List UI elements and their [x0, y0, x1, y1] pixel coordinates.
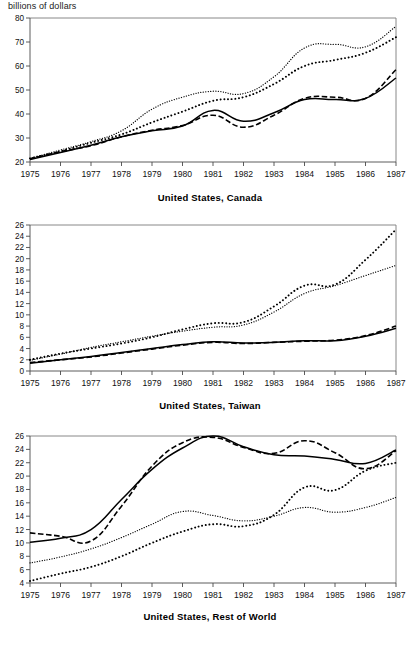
- y-tick-label: 26: [15, 432, 25, 441]
- chart-line-series-dotted-fine: [30, 265, 396, 360]
- x-tick-label: 1981: [203, 169, 222, 179]
- x-tick-label: 1984: [295, 378, 314, 388]
- y-tick-label: 10: [15, 539, 25, 548]
- chart-caption-taiwan: United States, Taiwan: [0, 400, 420, 411]
- x-tick-label: 1986: [356, 169, 375, 179]
- y-tick-label: 6: [19, 566, 24, 575]
- y-tick-label: 40: [15, 110, 25, 119]
- x-tick-label: 1979: [142, 169, 161, 179]
- x-tick-label: 1976: [51, 378, 70, 388]
- y-tick-label: 26: [15, 221, 25, 230]
- y-tick-label: 24: [15, 232, 25, 241]
- y-tick-label: 70: [15, 38, 25, 47]
- chart-line-series-dashed: [30, 437, 396, 543]
- x-tick-label: 1983: [264, 590, 283, 600]
- x-tick-label: 1981: [203, 378, 222, 388]
- y-tick-label: 12: [15, 300, 25, 309]
- y-tick-label: 4: [19, 345, 24, 354]
- x-tick-label: 1976: [51, 590, 70, 600]
- y-tick-label: 20: [15, 158, 25, 167]
- x-tick-label: 1982: [234, 169, 253, 179]
- x-tick-label: 1985: [325, 590, 344, 600]
- y-tick-label: 12: [15, 526, 25, 535]
- chart-line-series-solid: [30, 78, 396, 160]
- x-tick-label: 1981: [203, 590, 222, 600]
- y-tick-label: 14: [15, 288, 25, 297]
- x-tick-label: 1979: [142, 378, 161, 388]
- y-tick-label: 10: [15, 311, 25, 320]
- x-tick-label: 1975: [20, 378, 39, 388]
- chart-panel-taiwan: 0246810121416182022242619751976197719781…: [0, 219, 420, 400]
- y-tick-label: 0: [19, 367, 24, 376]
- x-tick-label: 1986: [356, 378, 375, 388]
- chart-line-series-solid: [30, 436, 396, 542]
- y-tick-label: 2: [19, 356, 24, 365]
- y-tick-label: 14: [15, 512, 25, 521]
- y-tick-label: 8: [19, 552, 24, 561]
- x-tick-label: 1980: [173, 378, 192, 388]
- y-tick-label: 22: [15, 243, 25, 252]
- chart-svg: 2030405060708019751976197719781979198019…: [0, 10, 420, 192]
- x-tick-label: 1984: [295, 590, 314, 600]
- x-tick-label: 1979: [142, 590, 161, 600]
- y-tick-label: 6: [19, 333, 24, 342]
- y-tick-label: 4: [19, 579, 24, 588]
- x-tick-label: 1975: [20, 169, 39, 179]
- x-tick-label: 1976: [51, 169, 70, 179]
- x-tick-label: 1985: [325, 169, 344, 179]
- x-tick-label: 1978: [112, 378, 131, 388]
- y-tick-label: 24: [15, 445, 25, 454]
- x-tick-label: 1982: [234, 378, 253, 388]
- x-tick-label: 1980: [173, 590, 192, 600]
- y-tick-label: 50: [15, 86, 25, 95]
- plot-frame: [30, 436, 396, 583]
- chart-line-series-dashed: [30, 70, 396, 159]
- y-tick-label: 16: [15, 277, 25, 286]
- chart-caption-canada: United States, Canada: [0, 192, 420, 203]
- x-tick-label: 1977: [81, 169, 100, 179]
- x-tick-label: 1975: [20, 590, 39, 600]
- y-tick-label: 22: [15, 459, 25, 468]
- chart-panel-rest-of-world: 4681012141618202224261975197619771978197…: [0, 428, 420, 611]
- x-tick-label: 1978: [112, 590, 131, 600]
- y-tick-label: 60: [15, 62, 25, 71]
- y-tick-label: 30: [15, 134, 25, 143]
- chart-caption-rest-of-world: United States, Rest of World: [0, 611, 420, 622]
- chart-svg: 4681012141618202224261975197619771978197…: [0, 428, 420, 611]
- chart-panel-canada: 2030405060708019751976197719781979198019…: [0, 10, 420, 192]
- y-tick-label: 18: [15, 266, 25, 275]
- plot-frame: [30, 18, 396, 162]
- x-tick-label: 1977: [81, 590, 100, 600]
- x-tick-label: 1977: [81, 378, 100, 388]
- x-tick-label: 1987: [386, 169, 405, 179]
- y-tick-label: 80: [15, 14, 25, 23]
- y-tick-label: 18: [15, 485, 25, 494]
- x-tick-label: 1980: [173, 169, 192, 179]
- x-tick-label: 1983: [264, 169, 283, 179]
- y-tick-label: 16: [15, 499, 25, 508]
- x-tick-label: 1985: [325, 378, 344, 388]
- x-tick-label: 1984: [295, 169, 314, 179]
- x-tick-label: 1978: [112, 169, 131, 179]
- x-tick-label: 1982: [234, 590, 253, 600]
- x-tick-label: 1986: [356, 590, 375, 600]
- figure-root: billions of dollars 20304050607080197519…: [0, 0, 420, 645]
- x-tick-label: 1987: [386, 378, 405, 388]
- y-tick-label: 20: [15, 472, 25, 481]
- chart-line-series-dotted-fine: [30, 497, 396, 562]
- chart-line-series-dotted-big: [30, 463, 396, 581]
- y-tick-label: 20: [15, 255, 25, 264]
- y-tick-label: 8: [19, 322, 24, 331]
- x-tick-label: 1983: [264, 378, 283, 388]
- chart-svg: 0246810121416182022242619751976197719781…: [0, 219, 420, 400]
- chart-line-series-solid: [30, 328, 396, 363]
- chart-line-series-dotted-fine: [30, 26, 396, 158]
- x-tick-label: 1987: [386, 590, 405, 600]
